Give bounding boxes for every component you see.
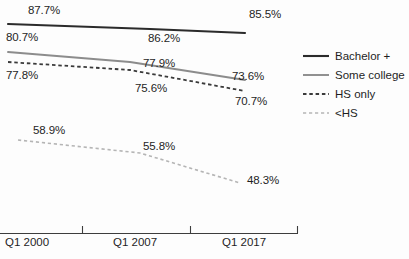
data-label-hs-only-q1-2017: 70.7% — [235, 95, 267, 107]
x-axis-label-q1-2007: Q1 2007 — [113, 236, 157, 248]
data-label-bachelor-plus-q1-2007: 86.2% — [148, 32, 180, 44]
legend-item-less-than-hs[interactable]: <HS — [303, 104, 407, 121]
data-label-less-than-hs-q1-2000: 58.9% — [33, 124, 65, 136]
legend-item-hs-only[interactable]: HS only — [303, 85, 407, 102]
data-label-less-than-hs-q1-2007: 55.8% — [143, 140, 175, 152]
data-label-bachelor-plus-q1-2017: 85.5% — [249, 8, 281, 20]
data-label-some-college-q1-2000: 80.7% — [6, 31, 38, 43]
series-line-some-college — [8, 52, 245, 80]
legend-item-some-college[interactable]: Some college — [303, 66, 407, 83]
series-line-less-than-hs — [18, 140, 240, 183]
legend-label-hs-only: HS only — [335, 88, 375, 100]
legend-swatch-hs-only-icon — [303, 89, 329, 99]
data-label-hs-only-q1-2007: 75.6% — [135, 82, 167, 94]
legend-item-bachelor-plus[interactable]: Bachelor + — [303, 47, 407, 64]
chart-legend: Bachelor + Some college HS only — [303, 47, 407, 123]
legend-label-less-than-hs: <HS — [335, 107, 358, 119]
data-label-some-college-q1-2017: 73.6% — [232, 70, 264, 82]
legend-swatch-less-than-hs-icon — [303, 108, 329, 118]
data-label-bachelor-plus-q1-2000: 87.7% — [28, 4, 60, 16]
legend-label-some-college: Some college — [335, 69, 405, 81]
legend-swatch-some-college-icon — [303, 70, 329, 80]
line-chart: 87.7% 86.2% 85.5% 80.7% 77.9% 73.6% 77.8… — [0, 0, 409, 259]
series-line-hs-only — [8, 62, 245, 91]
legend-swatch-bachelor-plus-icon — [303, 51, 329, 61]
data-label-hs-only-q1-2000: 77.8% — [6, 69, 38, 81]
x-axis-label-q1-2000: Q1 2000 — [5, 236, 49, 248]
x-axis-label-q1-2017: Q1 2017 — [222, 236, 266, 248]
data-label-some-college-q1-2007: 77.9% — [143, 57, 175, 69]
data-label-less-than-hs-q1-2017: 48.3% — [247, 174, 279, 186]
legend-label-bachelor-plus: Bachelor + — [335, 50, 390, 62]
series-line-bachelor-plus — [8, 24, 245, 33]
